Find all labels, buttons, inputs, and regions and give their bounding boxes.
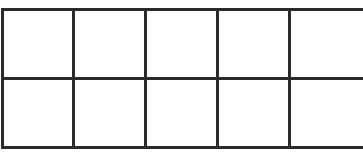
grid-cell-r2-c5 <box>291 80 360 146</box>
grid-cell-r2-c4 <box>219 80 288 146</box>
grid-bottom-border <box>1 146 363 149</box>
grid-cell-r2-c2 <box>75 80 144 146</box>
grid-cell-r2-c1 <box>4 80 72 146</box>
grid-cell-r1-c3 <box>147 11 216 77</box>
grid-cell-r1-c1 <box>4 11 72 77</box>
grid-cell-r2-c3 <box>147 80 216 146</box>
grid-cell-r1-c5 <box>291 11 360 77</box>
grid-cell-r1-c4 <box>219 11 288 77</box>
grid-cell-r1-c2 <box>75 11 144 77</box>
grid <box>1 8 363 149</box>
